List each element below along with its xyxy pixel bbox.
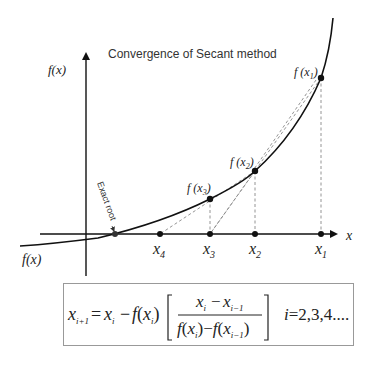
label-x1: x1 xyxy=(314,240,327,260)
point-x1 xyxy=(318,231,324,237)
x-axis-label: x xyxy=(345,228,353,243)
point-f-x1 xyxy=(318,75,324,81)
svg-text:=: = xyxy=(91,304,101,324)
label-x2: x2 xyxy=(248,240,261,260)
secant-method-diagram: Convergence of Secant method f(x) x f(x)… xyxy=(0,0,374,365)
exact-root-annotation: Exact root xyxy=(95,180,118,222)
label-f-x1: f (x1) xyxy=(294,65,318,81)
curve-label: f(x) xyxy=(22,252,42,268)
svg-text:−: − xyxy=(120,304,130,324)
svg-text:i=2,3,4....: i=2,3,4.... xyxy=(284,305,349,324)
point-x4 xyxy=(157,231,163,237)
exact-root-point xyxy=(112,231,118,237)
point-x2 xyxy=(252,231,258,237)
point-f-x3 xyxy=(207,196,213,202)
svg-text:Exact root: Exact root xyxy=(95,180,118,222)
y-axis-label: f(x) xyxy=(48,62,66,77)
point-x3 xyxy=(207,231,213,237)
diagram-title: Convergence of Secant method xyxy=(108,47,277,61)
exact-root-arrow xyxy=(112,226,114,231)
label-f-x2: f (x2) xyxy=(230,155,254,171)
label-x3: x3 xyxy=(202,240,215,260)
label-x4: x4 xyxy=(152,240,165,260)
label-f-x3: f (x3) xyxy=(187,181,211,197)
svg-text:f(xi): f(xi) xyxy=(132,304,160,326)
svg-text:−: − xyxy=(211,292,221,311)
